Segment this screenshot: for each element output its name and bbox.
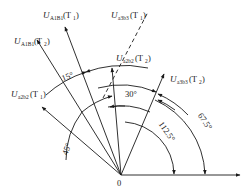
svg-text:): ) (202, 74, 205, 84)
svg-text:a3b3: a3b3 (177, 79, 188, 85)
svg-text:(T: (T (30, 89, 39, 99)
svg-text:(T: (T (63, 10, 72, 20)
arc-30-right (158, 94, 188, 115)
svg-text:U: U (11, 89, 18, 99)
label-ua3b3-t1: U a3b3 (T 1 ) (111, 10, 146, 21)
vector-ua1b1-t1 (65, 27, 121, 175)
vector-ua1b1-t2 (37, 40, 121, 175)
angle-label-15: 15° (60, 69, 75, 83)
svg-text:A1B1: A1B1 (21, 41, 34, 47)
arc-67-5 (155, 100, 205, 174)
angle-label-45: 45° (60, 142, 73, 157)
svg-text:U: U (43, 10, 50, 20)
svg-text:(T: (T (34, 36, 43, 46)
svg-text:(T: (T (135, 53, 144, 63)
angle-label-67-5: 67.5° (196, 111, 215, 132)
svg-text:a2b2: a2b2 (123, 58, 134, 64)
arc-15-right (86, 66, 112, 72)
svg-text:): ) (47, 36, 50, 46)
angle-label-30: 30° (125, 89, 137, 99)
label-ua1b1-t2: U A1B1 (T 2 ) (14, 36, 50, 47)
svg-text:U: U (116, 53, 123, 63)
label-ua1b1-t1: U A1B1 (T 1 ) (43, 10, 79, 21)
arc-15-ext (112, 65, 148, 68)
svg-text:U: U (170, 74, 177, 84)
svg-text:): ) (148, 53, 151, 63)
label-ua2b2-t1: U a2b2 (T 1 ) (11, 89, 46, 100)
label-ua3b3-t2: U a3b3 (T 2 ) (170, 74, 205, 85)
origin-label: 0 (117, 178, 121, 188)
svg-text:(T: (T (189, 74, 198, 84)
svg-text:A1B1: A1B1 (50, 15, 63, 21)
svg-text:): ) (43, 89, 46, 99)
vector-ua2b2-t1 (42, 107, 121, 175)
svg-text:U: U (111, 10, 118, 20)
phasor-diagram: U A1B1 (T 1 ) U a3b3 (T 1 ) U A1B1 (T 2 … (0, 0, 243, 195)
vector-ua2b2-t2 (112, 68, 121, 175)
svg-text:a2b2: a2b2 (18, 94, 29, 100)
angle-label-112-5: 112.5° (157, 119, 178, 143)
svg-text:): ) (143, 10, 146, 20)
arc-45-b (82, 96, 112, 112)
svg-text:(T: (T (130, 10, 139, 20)
label-ua2b2-t2: U a2b2 (T 2 ) (116, 53, 151, 64)
svg-text:): ) (76, 10, 79, 20)
svg-text:a3b3: a3b3 (118, 15, 129, 21)
svg-text:U: U (14, 36, 21, 46)
